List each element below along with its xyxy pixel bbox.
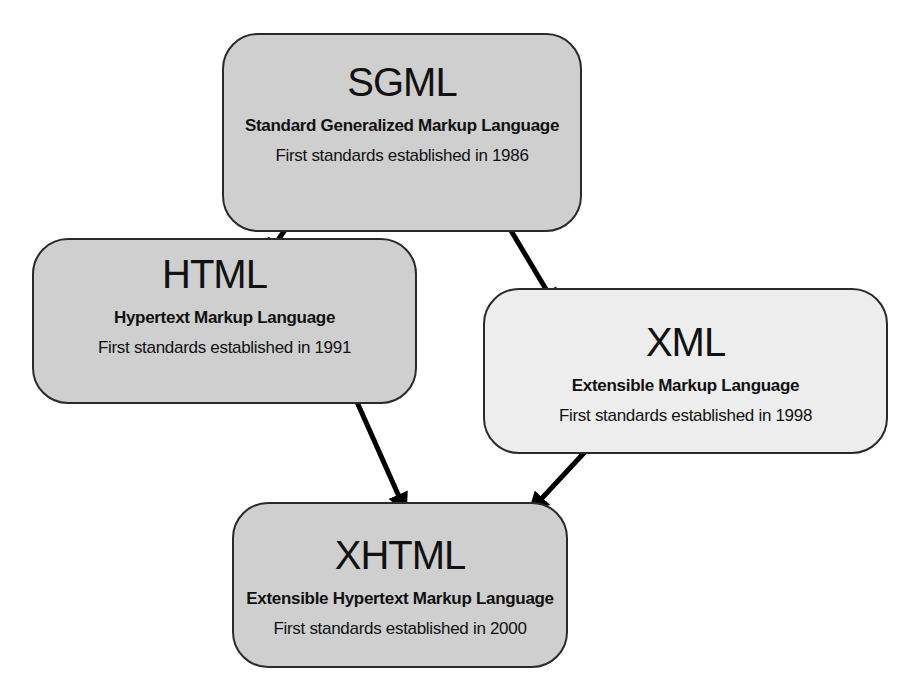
node-established: First standards established in 2000 bbox=[273, 619, 526, 639]
node-abbr: XHTML bbox=[335, 535, 466, 575]
node-full-name: Extensible Markup Language bbox=[572, 376, 799, 396]
node-xml: XML Extensible Markup Language First sta… bbox=[483, 288, 888, 454]
node-html: HTML Hypertext Markup Language First sta… bbox=[32, 238, 417, 404]
arrow-html-to-xhtml bbox=[357, 402, 405, 510]
node-sgml: SGML Standard Generalized Markup Languag… bbox=[222, 33, 582, 232]
node-full-name: Standard Generalized Markup Language bbox=[245, 116, 559, 136]
node-full-name: Extensible Hypertext Markup Language bbox=[246, 589, 554, 609]
node-abbr: SGML bbox=[347, 62, 456, 102]
node-established: First standards established in 1991 bbox=[98, 338, 351, 358]
node-abbr: HTML bbox=[162, 254, 267, 294]
node-established: First standards established in 1998 bbox=[559, 406, 812, 426]
node-full-name: Hypertext Markup Language bbox=[114, 308, 335, 328]
node-established: First standards established in 1986 bbox=[275, 146, 528, 166]
node-abbr: XML bbox=[646, 322, 725, 362]
node-xhtml: XHTML Extensible Hypertext Markup Langua… bbox=[232, 502, 568, 668]
